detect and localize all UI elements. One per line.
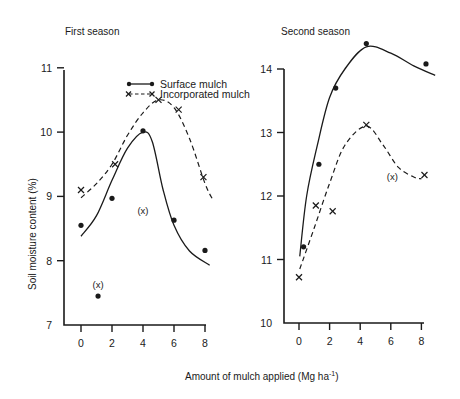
excluded-data-point-dot-icon	[95, 293, 100, 298]
data-point-dot-icon	[333, 85, 338, 90]
x-tick-label: 0	[296, 335, 302, 347]
x-axis-label-close: )	[335, 371, 338, 382]
data-point-dot-icon	[140, 128, 145, 133]
x-axis-label-main: Amount of mulch applied (Mg ha	[185, 371, 329, 382]
legend-incorporated-mulch: Incorporated mulch	[126, 88, 250, 100]
second-season-title: Second season	[281, 26, 350, 37]
y-tick-label: 13	[260, 127, 272, 139]
second-season-x-axis: 02468	[296, 323, 424, 347]
data-point-dot-icon	[78, 223, 83, 228]
data-point-x-marker-icon	[363, 122, 369, 128]
data-point-dot-icon	[364, 41, 369, 46]
data-point-dot-icon	[171, 218, 176, 223]
data-point-x-marker-icon	[78, 187, 84, 193]
y-tick-label: 11	[261, 254, 272, 266]
legend-dot-icon	[127, 82, 131, 86]
legend-dot-icon	[150, 82, 154, 86]
data-point-dot-icon	[109, 196, 114, 201]
data-point-x-marker-icon	[313, 203, 319, 209]
surface-mulch-series	[300, 41, 435, 256]
data-point-dot-icon	[423, 61, 428, 66]
x-tick-label: 6	[388, 335, 394, 347]
excluded-point-annotation: (x)	[387, 171, 398, 182]
x-axis-label: Amount of mulch applied (Mg ha-1)	[185, 370, 339, 382]
x-tick-label: 2	[327, 335, 333, 347]
first-season-x-axis: 02468	[78, 325, 208, 349]
surface-mulch-series	[78, 128, 209, 265]
excluded-point-annotation: (x)	[93, 279, 104, 290]
data-point-dot-icon	[316, 162, 321, 167]
data-point-dot-icon	[301, 244, 306, 249]
first-season-panel: First season 7891011 02468 (x)(x)	[40, 26, 212, 349]
data-point-dot-icon	[202, 248, 207, 253]
first-season-title: First season	[65, 26, 119, 37]
legend: Surface mulch Incorporated mulch	[126, 78, 250, 100]
x-tick-label: 0	[78, 337, 84, 349]
x-tick-label: 8	[418, 335, 424, 347]
incorporated-mulch-curve	[300, 126, 422, 269]
y-tick-label: 10	[260, 317, 272, 329]
second-season-y-axis: 1011121314	[260, 63, 424, 329]
incorporated-mulch-series	[78, 97, 213, 200]
x-tick-label: 2	[109, 337, 115, 349]
y-tick-label: 12	[260, 190, 272, 202]
data-point-x-marker-icon	[296, 274, 302, 280]
second-season-plot: (x)	[296, 41, 435, 280]
surface-mulch-curve	[81, 132, 210, 265]
y-axis-label: Soil moisture content (%)	[27, 178, 38, 290]
y-tick-label: 10	[40, 126, 52, 138]
first-season-y-axis: 7891011	[40, 62, 206, 331]
legend-incorporated-label: Incorporated mulch	[160, 88, 250, 100]
x-tick-label: 6	[171, 337, 177, 349]
incorporated-mulch-curve	[81, 100, 213, 200]
chart-canvas: First season 7891011 02468 (x)(x) Second…	[0, 0, 460, 399]
y-tick-label: 14	[260, 63, 272, 75]
y-tick-label: 9	[46, 190, 52, 202]
data-point-x-marker-icon	[330, 208, 336, 214]
data-point-x-marker-icon	[112, 161, 118, 167]
y-tick-label: 8	[46, 255, 52, 267]
excluded-point-annotation: (x)	[137, 205, 148, 216]
surface-mulch-curve	[300, 46, 435, 256]
data-point-x-marker-icon	[421, 172, 427, 178]
incorporated-mulch-series	[296, 122, 427, 280]
first-season-plot: (x)(x)	[78, 97, 213, 299]
x-tick-label: 8	[202, 337, 208, 349]
y-tick-label: 7	[46, 319, 52, 331]
data-point-x-marker-icon	[176, 107, 182, 113]
x-tick-label: 4	[140, 337, 146, 349]
soil-moisture-figure: First season 7891011 02468 (x)(x) Second…	[0, 0, 460, 399]
x-tick-label: 4	[357, 335, 363, 347]
y-tick-label: 11	[41, 62, 52, 74]
second-season-panel: Second season 1011121314 02468 (x)	[260, 26, 435, 347]
